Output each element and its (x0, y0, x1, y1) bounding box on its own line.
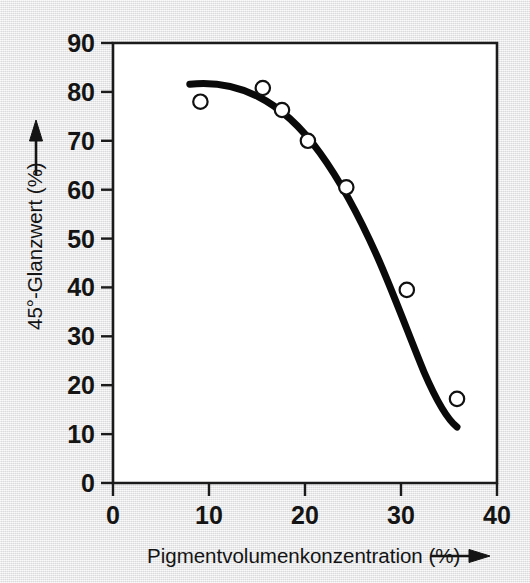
y-axis-title: 45°-Glanzwert (%) (23, 162, 46, 330)
y-tick-label: 10 (67, 420, 95, 448)
plot-area (113, 43, 497, 483)
y-tick-label: 70 (67, 127, 95, 155)
x-tick-label: 30 (387, 501, 415, 529)
x-tick-label: 20 (291, 501, 319, 529)
data-point (301, 134, 315, 148)
chart-canvas: 90 80 70 60 50 40 30 20 10 0 0 10 20 30 … (0, 0, 530, 583)
y-tick-labels: 90 80 70 60 50 40 30 20 10 0 (67, 29, 95, 497)
y-tick-label: 90 (67, 29, 95, 57)
y-tick-label: 20 (67, 371, 95, 399)
x-tick-marks (113, 483, 497, 496)
figure-container: 90 80 70 60 50 40 30 20 10 0 0 10 20 30 … (0, 0, 530, 583)
y-tick-label: 50 (67, 225, 95, 253)
y-tick-label: 30 (67, 322, 95, 350)
data-point (450, 392, 464, 406)
data-point (193, 95, 207, 109)
x-axis-title: Pigmentvolumenkonzentration (%) (147, 544, 460, 567)
data-point (339, 180, 353, 194)
y-tick-label: 60 (67, 176, 95, 204)
y-tick-label: 40 (67, 273, 95, 301)
x-tick-label: 0 (106, 501, 120, 529)
data-point (400, 283, 414, 297)
x-tick-label: 40 (483, 501, 511, 529)
data-point (256, 81, 270, 95)
y-tick-label: 0 (81, 469, 95, 497)
x-tick-labels: 0 10 20 30 40 (106, 501, 511, 529)
y-tick-label: 80 (67, 78, 95, 106)
y-tick-marks (101, 43, 113, 483)
data-point (275, 103, 289, 117)
x-tick-label: 10 (195, 501, 223, 529)
